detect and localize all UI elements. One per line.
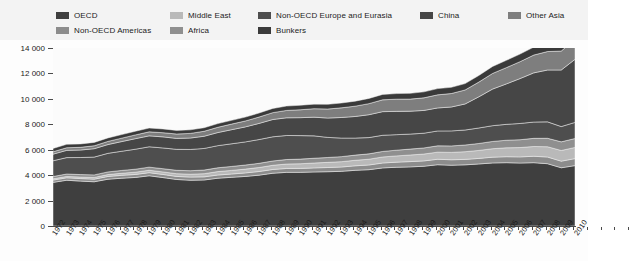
legend-swatch-icon — [258, 12, 271, 19]
y-axis-tick-label: 4 000 — [25, 171, 45, 180]
y-axis-tick-label: 2 000 — [25, 197, 45, 206]
x-axis-labels: 1972197319741975197619771978197919801981… — [0, 230, 588, 261]
y-axis-labels: 02 0004 0006 0008 00010 00012 00014 000 — [0, 40, 50, 234]
legend-item-label: Africa — [188, 26, 209, 35]
legend-item[interactable]: Non-OECD Americas — [56, 26, 151, 35]
y-axis-tick-label: 6 000 — [25, 146, 45, 155]
legend-item[interactable]: Other Asia — [508, 11, 564, 20]
legend-item[interactable]: Middle East — [170, 11, 231, 20]
y-axis-tick-label: 10 000 — [21, 95, 45, 104]
legend-item-label: China — [438, 11, 459, 20]
y-axis-tick-label: 8 000 — [25, 120, 45, 129]
legend-item-label: Non-OECD Americas — [74, 26, 151, 35]
legend-item[interactable]: OECD — [56, 11, 98, 20]
legend-item-label: Bunkers — [276, 26, 306, 35]
chart-legend: OECDMiddle EastNon-OECD Europe and Euras… — [0, 0, 588, 40]
legend-item[interactable]: Africa — [170, 26, 209, 35]
legend-row-primary: OECDMiddle EastNon-OECD Europe and Euras… — [0, 10, 588, 21]
legend-item-label: Other Asia — [526, 11, 564, 20]
x-axis-tick-mark — [601, 227, 602, 230]
legend-swatch-icon — [170, 12, 183, 19]
stacked-area-chart — [53, 48, 575, 226]
legend-swatch-icon — [420, 12, 433, 19]
legend-item-label: OECD — [74, 11, 98, 20]
legend-row-secondary: Non-OECD AmericasAfricaBunkers — [0, 25, 588, 36]
legend-item[interactable]: Bunkers — [258, 26, 306, 35]
plot-area-wrapper: 02 0004 0006 0008 00010 00012 00014 000 … — [0, 40, 588, 261]
legend-swatch-icon — [170, 27, 183, 34]
legend-item[interactable]: Non-OECD Europe and Eurasia — [258, 11, 392, 20]
plot-area — [53, 48, 575, 226]
x-axis-tick-mark — [614, 227, 615, 230]
legend-item-label: Middle East — [188, 11, 231, 20]
legend-swatch-icon — [258, 27, 271, 34]
y-axis-tick-label: 12 000 — [21, 69, 45, 78]
legend-swatch-icon — [508, 12, 521, 19]
y-axis-tick-label: 14 000 — [21, 44, 45, 53]
legend-item-label: Non-OECD Europe and Eurasia — [276, 11, 392, 20]
legend-item[interactable]: China — [420, 11, 459, 20]
legend-swatch-icon — [56, 12, 69, 19]
legend-swatch-icon — [56, 27, 69, 34]
